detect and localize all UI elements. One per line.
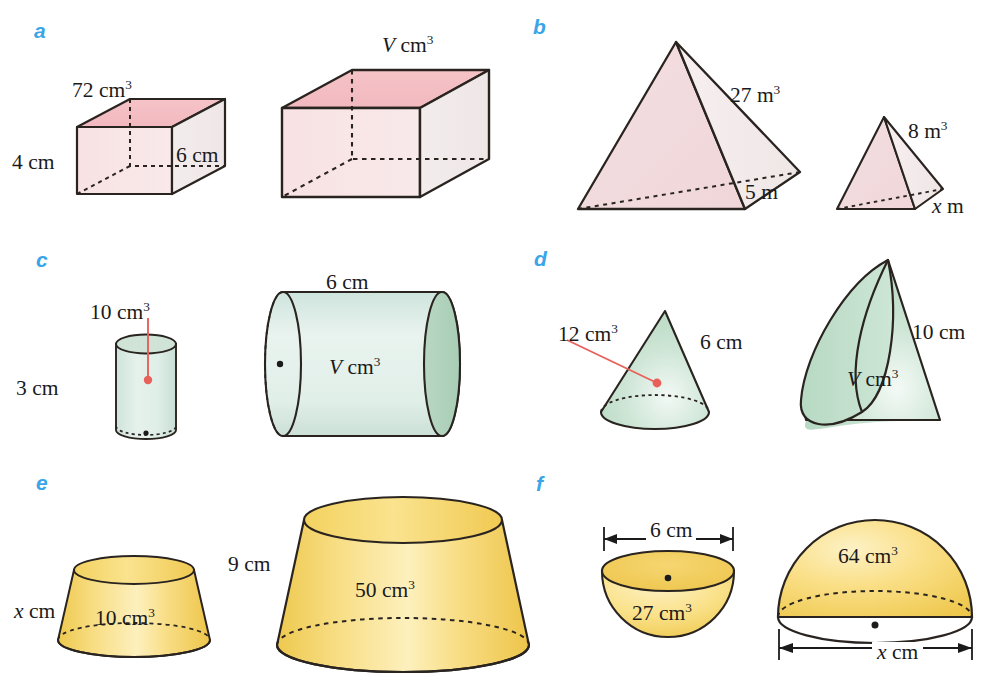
label-small-pyramid-volume: 8 m3	[908, 121, 948, 143]
panel-e-figures	[58, 497, 529, 672]
label-small-pyramid-edge: x m	[932, 196, 964, 218]
panel-letter-d: d	[534, 248, 547, 269]
label-large-cuboid-height: 6 cm	[176, 145, 218, 167]
label-large-cuboid-volume: V cm3	[382, 35, 433, 57]
label-small-cuboid-height: 4 cm	[12, 152, 54, 174]
panel-letter-c: c	[36, 249, 48, 270]
label-large-frustum-height: 9 cm	[228, 554, 270, 576]
large-hemisphere	[778, 520, 972, 660]
label-small-cone-slant: 6 cm	[700, 332, 742, 354]
label-large-pyramid-edge: 5 m	[745, 182, 778, 204]
label-large-frustum-volume: 50 cm3	[355, 580, 415, 602]
label-small-hemisphere-volume: 27 cm3	[632, 603, 692, 625]
label-small-frustum-volume: 10 cm3	[95, 608, 155, 630]
large-cone	[801, 260, 940, 430]
panel-letter-b: b	[533, 16, 546, 37]
label-large-hemisphere-diameter: x cm	[872, 642, 923, 664]
figure-canvas	[0, 0, 1005, 679]
label-large-cone-volume: V cm3	[847, 369, 898, 391]
panel-a-figures	[77, 70, 489, 197]
label-small-cuboid-volume: 72 cm3	[72, 80, 132, 102]
panel-letter-f: f	[536, 473, 543, 494]
small-cylinder	[116, 318, 176, 439]
label-large-cylinder-length: 6 cm	[326, 272, 368, 294]
label-large-pyramid-volume: 27 m3	[730, 85, 780, 107]
label-small-cylinder-height: 3 cm	[16, 378, 58, 400]
panel-letter-e: e	[36, 472, 48, 493]
figure-sheet: a b c d e f 72 cm3 4 cm V cm3 6 cm 27 m3…	[0, 0, 1005, 679]
panel-letter-a: a	[34, 20, 46, 41]
panel-c-figures	[116, 292, 460, 439]
label-small-hemisphere-diameter: 6 cm	[646, 520, 696, 542]
panel-d-figures	[567, 260, 940, 430]
label-large-hemisphere-volume: 64 cm3	[838, 546, 898, 568]
label-small-cylinder-volume: 10 cm3	[90, 302, 150, 324]
label-small-cone-volume: 12 cm3	[558, 324, 618, 346]
label-large-cylinder-volume: V cm3	[329, 357, 380, 379]
large-cuboid	[282, 70, 489, 197]
label-small-frustum-slant: x cm	[14, 601, 55, 623]
label-large-cone-slant: 10 cm	[912, 322, 965, 344]
